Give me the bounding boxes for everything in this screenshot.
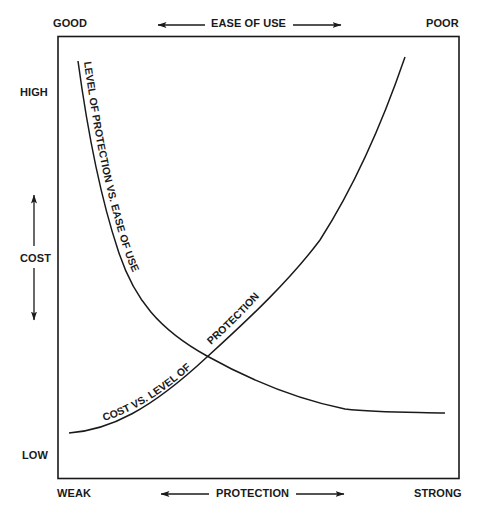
curve-protection-vs-ease-of-use — [78, 61, 445, 413]
curve-cost-vs-protection — [69, 57, 405, 433]
chart-canvas: LEVEL OF PROTECTION VS. EASE OF USE COST… — [0, 0, 480, 521]
curve1-label: LEVEL OF PROTECTION VS. EASE OF USE — [82, 61, 142, 274]
curve2-label-part1: COST VS. LEVEL OF — [101, 360, 193, 423]
curve2-label-part2: PROTECTION — [204, 290, 261, 347]
